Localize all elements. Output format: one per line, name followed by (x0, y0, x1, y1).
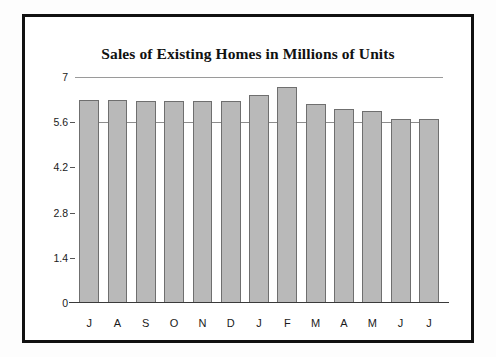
bar[interactable] (391, 119, 411, 303)
bar[interactable] (249, 95, 269, 303)
bar-slot (75, 77, 103, 303)
bar[interactable] (334, 109, 354, 303)
y-tick-label-2-8: 2.8 (53, 207, 68, 219)
bar-series (75, 77, 443, 303)
x-tick-label: N (188, 317, 216, 329)
x-tick-label: J (75, 317, 103, 329)
x-axis-baseline (69, 302, 449, 303)
bar[interactable] (108, 100, 128, 303)
x-tick-label: J (386, 317, 414, 329)
x-tick-label: A (103, 317, 131, 329)
bar[interactable] (277, 87, 297, 303)
bar-slot (302, 77, 330, 303)
x-tick-label: O (160, 317, 188, 329)
bar-slot (132, 77, 160, 303)
y-tick-label-1-4: 1.4 (53, 252, 68, 264)
y-tick-label-0: 0 (62, 297, 68, 309)
bar-slot (103, 77, 131, 303)
x-tick-label: A (330, 317, 358, 329)
chart-screenshot: Sales of Existing Homes in Millions of U… (0, 0, 496, 357)
plot-area: 7 5.6 4.2 2.8 1.4 0 (75, 77, 443, 303)
x-tick-label: M (358, 317, 386, 329)
bar[interactable] (164, 101, 184, 303)
x-tick-label: S (132, 317, 160, 329)
y-tick-label-4-2: 4.2 (53, 161, 68, 173)
bar-slot (160, 77, 188, 303)
bar-slot (358, 77, 386, 303)
bar[interactable] (79, 100, 99, 303)
bar-slot (415, 77, 443, 303)
bar[interactable] (362, 111, 382, 303)
bar[interactable] (306, 104, 326, 303)
x-tick-label: M (302, 317, 330, 329)
bar[interactable] (193, 101, 213, 303)
bar-slot (217, 77, 245, 303)
bar-slot (273, 77, 301, 303)
chart-frame: Sales of Existing Homes in Millions of U… (22, 14, 474, 343)
x-tick-label: J (245, 317, 273, 329)
x-axis-labels: J A S O N D J F M A M J J (75, 317, 443, 329)
bar-slot (330, 77, 358, 303)
x-tick-label: D (217, 317, 245, 329)
bar-slot (386, 77, 414, 303)
y-tick-label-7: 7 (62, 71, 68, 83)
bar-slot (245, 77, 273, 303)
chart-title: Sales of Existing Homes in Millions of U… (25, 45, 471, 63)
bar[interactable] (221, 101, 241, 303)
bar-slot (188, 77, 216, 303)
bar[interactable] (419, 119, 439, 303)
x-tick-label: F (273, 317, 301, 329)
y-tick-label-5-6: 5.6 (53, 116, 68, 128)
bar[interactable] (136, 101, 156, 303)
x-tick-label: J (415, 317, 443, 329)
